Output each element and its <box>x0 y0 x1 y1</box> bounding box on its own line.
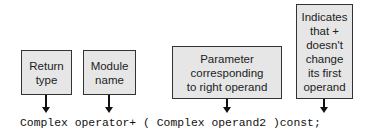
arrow-return-type <box>45 95 47 108</box>
arrow-const <box>323 99 325 108</box>
arrow-parameter <box>226 99 228 108</box>
code-declaration: Complex operator+ ( Complex operand2 )co… <box>20 117 321 129</box>
annotation-return-type: Return type <box>21 50 72 95</box>
annotation-parameter: Parameter corresponding to right operand <box>172 46 282 99</box>
arrow-module-name <box>108 95 110 108</box>
annotation-module-name: Module name <box>83 50 136 95</box>
annotation-const: Indicates that + doesn't change its firs… <box>296 4 353 99</box>
